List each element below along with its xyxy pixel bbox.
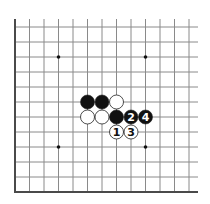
black-stone-4: 4 [139, 110, 153, 124]
star-point-icon [144, 55, 148, 59]
move-number: 4 [142, 111, 150, 124]
white-stone [95, 110, 109, 124]
move-number: 1 [113, 126, 121, 139]
star-point-icon [144, 145, 148, 149]
move-number: 2 [127, 111, 135, 124]
black-stone-2: 2 [124, 110, 138, 124]
white-stone-3: 3 [124, 125, 138, 139]
star-point-icon [57, 55, 61, 59]
move-number: 3 [127, 126, 135, 139]
black-stone [110, 110, 124, 124]
white-stone-1: 1 [110, 125, 124, 139]
white-stone [81, 110, 95, 124]
black-stone [81, 95, 95, 109]
star-point-icon [57, 145, 61, 149]
go-board: 2413 [0, 0, 210, 204]
black-stone [95, 95, 109, 109]
white-stone [110, 95, 124, 109]
